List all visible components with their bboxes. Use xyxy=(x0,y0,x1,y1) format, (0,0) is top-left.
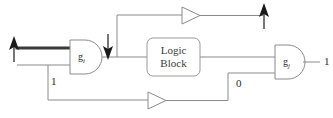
up-arrow-top-rising xyxy=(259,3,269,29)
and-gate-gi-label: gi xyxy=(78,52,85,65)
gate-gj-subscript: j xyxy=(288,62,290,70)
buffer-top-triangle xyxy=(182,7,200,24)
and-gate-gj-label: gj xyxy=(283,57,290,70)
down-arrow-gi-falling xyxy=(103,34,113,60)
wire-feedback-left xyxy=(48,65,148,100)
up-arrow-input-rising xyxy=(9,36,19,62)
gate-gi-subscript: i xyxy=(83,57,85,65)
logic-block-label-line2: Block xyxy=(147,57,200,70)
signal-value-one-left: 1 xyxy=(51,76,57,87)
buffer-bottom-triangle xyxy=(148,92,166,109)
circuit-diagram: gi gj Logic Block 1 0 1 xyxy=(0,0,333,118)
logic-block-label: Logic Block xyxy=(147,44,200,69)
signal-value-one-output: 1 xyxy=(324,56,330,67)
and-gate-gj-body xyxy=(275,45,305,79)
wire-feedback-right xyxy=(166,73,262,101)
logic-block-label-line1: Logic xyxy=(147,44,200,57)
and-gate-gi-body xyxy=(70,40,102,74)
signal-value-zero-right: 0 xyxy=(236,78,242,89)
